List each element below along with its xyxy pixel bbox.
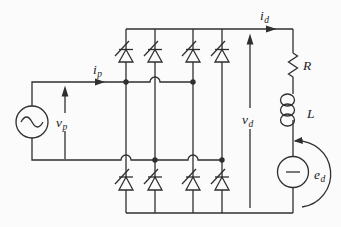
thyristor-bottom-1 (115, 169, 133, 190)
label-resistor: R (302, 58, 312, 73)
thyristor-top-3 (182, 41, 200, 62)
thyristor-triangle (215, 50, 229, 63)
thyristor-triangle (186, 50, 200, 63)
thyristor-triangle (215, 177, 229, 190)
junction-dot (123, 79, 128, 84)
emf-arrow-ed (295, 141, 331, 207)
label-id: id (260, 8, 269, 25)
junction-dot (152, 157, 157, 162)
sine-wave-icon (21, 117, 43, 127)
current-arrow-id (266, 26, 277, 33)
inductor-L (281, 94, 295, 157)
thyristor-triangle (186, 177, 200, 190)
resistor-R (289, 53, 298, 94)
thyristor-bottom-3 (182, 169, 200, 190)
thyristor-triangle (119, 50, 133, 63)
vp-arrow-head (62, 86, 69, 97)
dc-source-ed (278, 157, 309, 188)
thyristor-bottom-4 (211, 169, 229, 190)
thyristor-bottom-2 (144, 169, 162, 190)
label-vd: vd (242, 112, 254, 129)
junction-dot (219, 157, 224, 162)
wire-ac-top (32, 77, 193, 106)
thyristor-top-2 (144, 41, 162, 62)
thyristor-triangle (119, 177, 133, 190)
junction-dot (190, 79, 195, 84)
ac-source (16, 106, 48, 138)
thyristor-triangle (148, 50, 162, 63)
vd-arrow-head (247, 34, 254, 45)
circuit-canvas: ip id vp vd ed R L (0, 0, 341, 227)
circuit-diagram: ip id vp vd ed R L (0, 0, 341, 227)
current-arrow-ip (95, 79, 105, 86)
thyristor-top-1 (115, 41, 133, 62)
label-ed: ed (314, 167, 326, 184)
label-vp: vp (56, 115, 68, 132)
thyristor-triangle (148, 177, 162, 190)
label-inductor: L (306, 106, 315, 121)
thyristor-top-4 (211, 41, 229, 62)
label-ip: ip (93, 62, 102, 79)
